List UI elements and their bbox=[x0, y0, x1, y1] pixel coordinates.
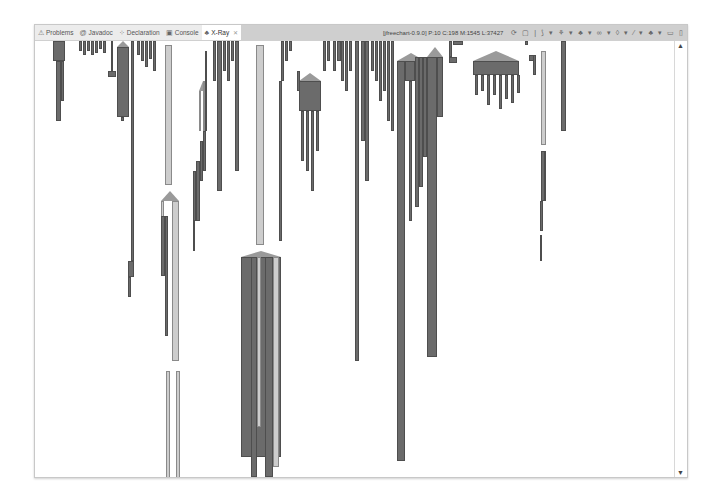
class-bar[interactable] bbox=[165, 216, 168, 336]
class-bar[interactable] bbox=[437, 57, 443, 117]
class-bar[interactable] bbox=[481, 75, 484, 91]
layout-icon[interactable]: ⟆ bbox=[541, 29, 544, 37]
class-bar[interactable] bbox=[79, 41, 82, 51]
class-bar[interactable] bbox=[387, 41, 390, 121]
class-bar[interactable] bbox=[141, 41, 144, 61]
filter-icon[interactable]: ⁄ bbox=[633, 29, 634, 36]
class-bar[interactable] bbox=[323, 41, 326, 71]
class-bar[interactable] bbox=[345, 41, 348, 91]
class-bar[interactable] bbox=[493, 75, 496, 95]
xray-visualization-canvas[interactable] bbox=[35, 41, 675, 477]
class-bar[interactable] bbox=[349, 41, 352, 71]
class-bar[interactable] bbox=[299, 81, 321, 111]
class-bar[interactable] bbox=[517, 75, 520, 93]
package-icon[interactable]: ⚘ bbox=[558, 29, 564, 37]
class-bar[interactable] bbox=[487, 75, 490, 105]
class-bar[interactable] bbox=[108, 71, 116, 77]
maximize-icon[interactable]: ▯ bbox=[679, 29, 683, 37]
class-bar[interactable] bbox=[61, 61, 64, 101]
class-bar[interactable] bbox=[145, 41, 148, 67]
class-bar[interactable] bbox=[475, 75, 478, 95]
class-bar[interactable] bbox=[341, 41, 344, 81]
minimize-icon[interactable]: ▭ bbox=[667, 29, 674, 37]
class-bar[interactable] bbox=[137, 41, 140, 55]
class-bar[interactable] bbox=[544, 151, 546, 201]
dropdown-icon[interactable]: ▾ bbox=[588, 29, 592, 37]
class-bar[interactable] bbox=[561, 41, 566, 131]
class-bar[interactable] bbox=[153, 41, 156, 71]
class-bar[interactable] bbox=[427, 57, 437, 357]
class-bar[interactable] bbox=[53, 41, 65, 61]
class-bar[interactable] bbox=[316, 111, 319, 151]
class-bar[interactable] bbox=[499, 75, 502, 109]
scroll-down-icon[interactable]: ▼ bbox=[677, 469, 684, 476]
tab-javadoc[interactable]: @Javadoc bbox=[76, 25, 115, 40]
interface-bar[interactable] bbox=[256, 45, 264, 245]
hierarchy-icon[interactable]: ♣ bbox=[648, 29, 653, 36]
class-bar[interactable] bbox=[525, 41, 528, 45]
class-bar[interactable] bbox=[540, 201, 543, 231]
class-bar[interactable] bbox=[265, 257, 273, 477]
dropdown-icon[interactable]: ▾ bbox=[607, 29, 611, 37]
dropdown-icon[interactable]: ▾ bbox=[639, 29, 643, 37]
class-bar[interactable] bbox=[391, 41, 394, 131]
class-bar[interactable] bbox=[371, 41, 374, 71]
dropdown-icon[interactable]: ▾ bbox=[658, 29, 662, 37]
refresh-icon[interactable]: ⟳ bbox=[511, 29, 517, 37]
dropdown-icon[interactable]: ▾ bbox=[549, 29, 553, 37]
class-bar[interactable] bbox=[95, 41, 98, 53]
class-bar[interactable] bbox=[281, 41, 284, 81]
class-bar[interactable] bbox=[405, 61, 415, 81]
tab-declaration[interactable]: ⁘Declaration bbox=[116, 25, 163, 40]
scroll-up-icon[interactable]: ▲ bbox=[677, 42, 684, 49]
method-icon[interactable]: ◊ bbox=[616, 29, 619, 36]
save-icon[interactable]: ▢ bbox=[522, 29, 529, 37]
class-bar[interactable] bbox=[453, 41, 463, 45]
class-bar[interactable] bbox=[149, 41, 152, 59]
class-bar[interactable] bbox=[383, 41, 386, 91]
class-bar[interactable] bbox=[375, 41, 378, 81]
class-bar[interactable] bbox=[289, 41, 292, 51]
class-bar[interactable] bbox=[231, 41, 234, 61]
class-bar[interactable] bbox=[87, 41, 90, 51]
interface-bar[interactable] bbox=[165, 45, 172, 185]
interface-bar[interactable] bbox=[176, 371, 180, 477]
tab-problems[interactable]: ⚠Problems bbox=[35, 25, 76, 40]
class-bar[interactable] bbox=[128, 277, 131, 297]
class-bar[interactable] bbox=[301, 111, 304, 161]
vertical-scrollbar[interactable]: ▲ ▼ bbox=[674, 41, 687, 477]
class-bar[interactable] bbox=[311, 111, 314, 191]
link-icon[interactable]: ∞ bbox=[597, 29, 602, 36]
class-bar[interactable] bbox=[205, 51, 207, 131]
class-bar[interactable] bbox=[279, 81, 282, 241]
class-bar[interactable] bbox=[511, 75, 514, 103]
class-icon[interactable]: ♣ bbox=[578, 29, 583, 36]
class-bar[interactable] bbox=[91, 41, 94, 55]
class-bar[interactable] bbox=[355, 41, 359, 361]
class-bar[interactable] bbox=[473, 61, 519, 75]
class-bar[interactable] bbox=[365, 41, 369, 181]
interface-bar[interactable] bbox=[166, 371, 170, 477]
class-bar[interactable] bbox=[285, 41, 288, 61]
class-bar[interactable] bbox=[379, 41, 382, 101]
class-bar[interactable] bbox=[203, 131, 206, 171]
dropdown-icon[interactable]: ▾ bbox=[624, 29, 628, 37]
class-bar[interactable] bbox=[227, 41, 230, 81]
class-bar[interactable] bbox=[223, 41, 226, 71]
class-bar[interactable] bbox=[131, 41, 134, 261]
class-bar[interactable] bbox=[397, 61, 405, 461]
class-bar[interactable] bbox=[333, 41, 336, 71]
class-bar[interactable] bbox=[449, 41, 452, 57]
class-bar[interactable] bbox=[505, 75, 508, 99]
class-bar[interactable] bbox=[128, 261, 134, 277]
class-bar[interactable] bbox=[117, 47, 129, 117]
class-bar[interactable] bbox=[193, 221, 195, 251]
interface-bar[interactable] bbox=[199, 91, 201, 131]
class-bar[interactable] bbox=[235, 41, 239, 171]
class-bar[interactable] bbox=[327, 41, 330, 61]
close-icon[interactable]: ✕ bbox=[233, 29, 238, 36]
class-bar[interactable] bbox=[217, 41, 222, 191]
class-bar[interactable] bbox=[213, 41, 216, 81]
class-bar[interactable] bbox=[121, 117, 124, 121]
interface-bar[interactable] bbox=[172, 201, 179, 361]
